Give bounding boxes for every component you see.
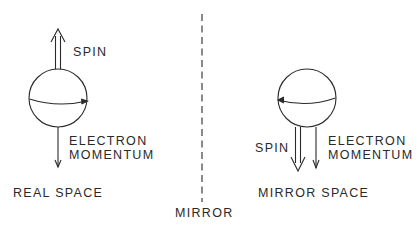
real-momentum-label-line2: MOMENTUM	[69, 148, 154, 162]
mirror-spin-arrow-icon	[291, 127, 305, 171]
mirror-momentum-label-line2: MOMENTUM	[328, 148, 413, 162]
real-spin-arrow-icon	[51, 29, 65, 69]
real-momentum-label-line1: ELECTRON	[69, 134, 147, 148]
mirror-space-label: MIRROR SPACE	[258, 186, 369, 200]
mirror-spin-label: SPIN	[255, 141, 289, 155]
mirror-momentum-label-line1: ELECTRON	[328, 134, 406, 148]
mirror-label: MIRROR	[175, 206, 234, 220]
real-spin-label: SPIN	[73, 45, 107, 59]
real-space-label: REAL SPACE	[13, 186, 103, 200]
mirror-electron-sphere	[278, 69, 336, 127]
mirror-rotation-arrowhead-icon	[278, 97, 284, 103]
real-electron-sphere	[29, 69, 88, 127]
mirror-momentum-arrow-icon	[313, 127, 319, 168]
real-momentum-arrow-icon	[55, 127, 61, 167]
